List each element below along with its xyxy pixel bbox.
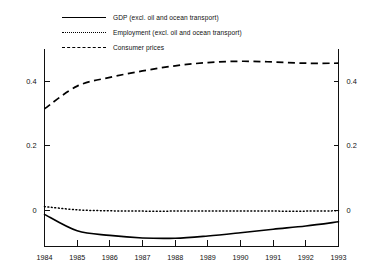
- y-tick-label-left: 0.4: [26, 77, 36, 86]
- x-tick-label: 1988: [167, 253, 183, 262]
- y-tick-label-left: 0: [32, 206, 36, 215]
- x-tick-label: 1984: [37, 253, 53, 262]
- x-tick-label: 1987: [135, 253, 151, 262]
- series-line-gdp: [45, 214, 339, 238]
- x-tick-label: 1992: [298, 253, 314, 262]
- series-line-employment: [45, 207, 339, 212]
- chart-figure: GDP (excl. oil and ocean transport) Empl…: [0, 0, 373, 275]
- y-tick-labels-right: 00.20.4: [347, 77, 357, 215]
- series-line-consumer-prices: [45, 61, 339, 108]
- y-tick-label-left: 0.2: [26, 141, 36, 150]
- chart-svg: 00.20.4 00.20.4 198419851986198719881989…: [0, 0, 373, 275]
- x-tick-label: 1990: [233, 253, 249, 262]
- y-tick-label-right: 0.2: [347, 141, 357, 150]
- x-ticks: [77, 240, 306, 246]
- x-tick-label: 1985: [69, 253, 85, 262]
- y-tick-label-right: 0.4: [347, 77, 357, 86]
- y-tick-label-right: 0: [347, 206, 351, 215]
- x-tick-label: 1991: [265, 253, 281, 262]
- x-tick-label: 1993: [331, 253, 347, 262]
- y-ticks-left: [45, 81, 50, 210]
- y-tick-labels-left: 00.20.4: [26, 77, 36, 215]
- x-tick-label: 1986: [102, 253, 118, 262]
- axis-frame: [44, 49, 339, 247]
- x-tick-labels: 1984198519861987198819891990199119921993: [37, 253, 347, 262]
- plot-area: 00.20.4 00.20.4 198419851986198719881989…: [0, 0, 373, 275]
- data-series-group: [45, 61, 339, 238]
- x-tick-label: 1989: [200, 253, 216, 262]
- y-ticks-right: [334, 81, 339, 210]
